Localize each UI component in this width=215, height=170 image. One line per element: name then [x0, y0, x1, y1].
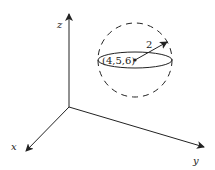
radius-label: 2 — [146, 39, 152, 50]
center-label: (4,5,6) — [102, 55, 135, 66]
y-axis — [69, 107, 204, 147]
x-axis-label: x — [11, 141, 17, 152]
x-axis — [26, 107, 69, 151]
diagram-canvas: z x y (4,5,6) 2 — [0, 0, 215, 170]
z-axis-label: z — [56, 19, 63, 30]
y-axis-label: y — [192, 155, 199, 166]
